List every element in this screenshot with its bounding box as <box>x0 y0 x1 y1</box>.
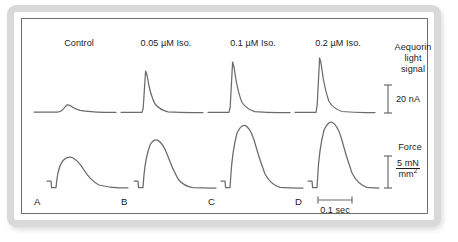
legend-scale-force-denominator-text: mm <box>398 169 413 179</box>
legend-aequorin-line2: light <box>378 53 448 64</box>
figure-root: Control 0.05 µM Iso. 0.1 µM Iso. 0.2 µM … <box>0 0 458 242</box>
legend-scale-force-exponent: 2 <box>414 167 418 174</box>
legend-scale-force-denominator: mm2 <box>396 169 420 179</box>
legend-aequorin-line3: signal <box>378 64 448 75</box>
legend-force-title: Force <box>378 142 442 153</box>
legend-scale-force: 5 mN mm2 <box>396 158 420 180</box>
scale-bar-20na <box>384 85 392 113</box>
force-trace-d <box>308 122 379 188</box>
panel-letter-a: A <box>34 196 40 207</box>
force-trace-c <box>221 125 303 188</box>
column-label-iso-01: 0.1 µM Iso. <box>213 38 293 49</box>
aequorin-trace-d <box>295 58 375 113</box>
aequorin-trace-c <box>208 62 290 113</box>
aequorin-trace-a <box>34 105 116 113</box>
time-scale-label: 0.1 sec <box>300 205 370 216</box>
aequorin-trace-b <box>121 71 203 113</box>
column-label-iso-02: 0.2 µM Iso. <box>298 38 378 49</box>
force-trace-b <box>134 140 216 188</box>
force-trace-a <box>47 157 128 188</box>
scale-bar-time <box>318 197 352 204</box>
scale-bar-5mn <box>384 156 392 188</box>
legend-aequorin-line1: Aequorin <box>378 42 448 53</box>
panel-letter-b: B <box>121 196 127 207</box>
column-label-control: Control <box>40 38 118 49</box>
panel-letter-c: C <box>208 196 215 207</box>
column-label-iso-005: 0.05 µM Iso. <box>124 38 208 49</box>
legend-scale-20na: 20 nA <box>396 94 420 105</box>
traces-plot <box>0 0 458 242</box>
